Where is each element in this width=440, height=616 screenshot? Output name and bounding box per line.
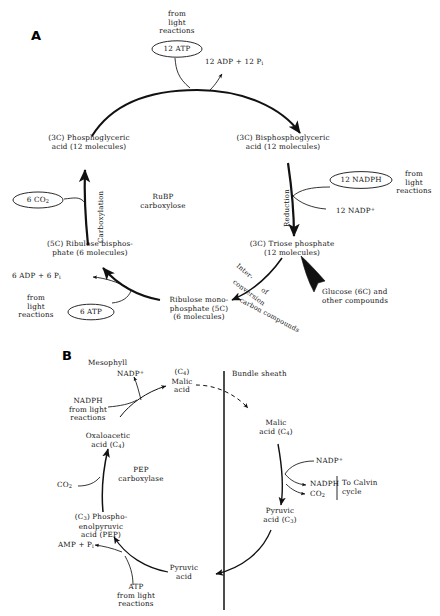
nadph-from-light-label: NADPH from light reactions [62, 397, 114, 423]
light-reactions-bottom-label: from light reactions [11, 294, 61, 320]
atp-feed-arrow [175, 58, 190, 88]
nadp-plus-top-superscript: + [140, 369, 145, 375]
oaa-rest: ) [122, 440, 125, 449]
co2-right-out [286, 484, 305, 494]
adp-bottom-text: 6 ADP + 6 P [12, 271, 59, 280]
rubp-carboxylase-label: RuBP carboxylose [120, 193, 206, 210]
pyruvic-acid-bottom-label: Pyruvic acid [160, 564, 208, 581]
bpga-label: (3C) Bisphosphoglyceric acid (12 molecul… [213, 134, 353, 151]
panel-label-b: B [62, 348, 72, 363]
pep-to-oaa-arrow [102, 449, 108, 512]
atp-bottom-feed [112, 291, 131, 303]
panel-label-a: A [31, 28, 41, 43]
co2-left-label: CO2 [57, 481, 72, 491]
adp-top-subscript: i [261, 60, 263, 66]
malic-transport-dashed [196, 385, 248, 408]
oaa-to-malic-arrow [120, 386, 166, 417]
light-reactions-top-label: from light reactions [138, 10, 216, 36]
nadp-plus-label: 12 NADP+ [336, 205, 375, 216]
malic-bundle-text: Malic acid (C [259, 418, 286, 436]
pep-carboxylase-label: PEP carboxylase [110, 466, 172, 483]
co2-subscript: 2 [46, 198, 49, 204]
rump-to-rubp-arrow [103, 268, 160, 300]
nadph-label: 12 NADPH [333, 176, 389, 185]
co2-right-label: CO2 [310, 490, 325, 500]
malic-to-pyruvate-arrow [278, 444, 282, 505]
pep-rest: ) Phospho- enolpyruvic acid (PEP) [79, 512, 128, 539]
nadph-right-label: NADPH [310, 480, 339, 489]
malic-bundle-rest: ) [290, 427, 293, 436]
nadp-plus-right-text: NADP [316, 456, 339, 465]
amp-subscript: i [92, 543, 94, 549]
nadp-plus-top-label: NADP+ [117, 368, 144, 379]
nadp-plus-superscript: + [371, 206, 376, 212]
glucose-label: Glucose (6C) and other compounds [322, 288, 434, 305]
reduction-label: Reduction [283, 189, 291, 227]
amp-label: AMP + Pi [58, 541, 94, 551]
nadph-feed-arrow [293, 187, 330, 209]
adp-bottom-subscript: i [59, 274, 61, 280]
co2-left-text: CO [57, 480, 69, 489]
malic-acid-bundle-label: Malic acid (C4) [248, 419, 304, 437]
atp-top-label: 12 ATP [152, 45, 202, 54]
amp-text: AMP + P [58, 540, 92, 549]
ribulose-monophosphate-label: Ribulose mono- phosphate (5C) (6 molecul… [155, 296, 243, 322]
amp-out-arrow [95, 545, 122, 552]
malic-acid-mesophyll-label: (C4) Malic acid [164, 368, 200, 395]
adp-top-text: 12 ADP + 12 P [205, 57, 261, 66]
co2-text: 6 CO [27, 195, 46, 204]
pga-label: (3C) Phosphoglyceric acid (12 molecules) [25, 134, 153, 151]
atp-from-light-label: ATP from light reactions [108, 583, 164, 609]
nadp-plus-text: 12 NADP [336, 206, 371, 215]
bundle-sheath-label: Bundle sheath [232, 370, 287, 379]
adp-out-arrow [210, 74, 222, 90]
nadp-plus-out-arrow [134, 377, 141, 400]
malic-meso-prefix: (C [174, 367, 183, 376]
co2-right-text: CO [310, 489, 322, 498]
co2-label: 6 CO2 [14, 196, 62, 206]
figure-canvas: A from light reactions 12 ATP 12 ADP + 1… [0, 0, 440, 616]
mesophyll-label: Mesophyll [88, 359, 127, 368]
nadp-plus-right-in [285, 461, 314, 474]
pep-label: (C3) Phospho- enolpyruvic acid (PEP) [57, 513, 145, 540]
pyruvic-bundle-rest: ) [294, 515, 297, 524]
co2-right-subscript: 2 [322, 492, 325, 498]
co2-feed-arrow [64, 198, 85, 203]
light-reactions-right-label: from light reactions [390, 170, 438, 196]
pyruvic-acid-bundle-label: Pyruvic acid (C3) [249, 507, 311, 525]
rubp-label: (5C) Ribulose bisphos- phate (6 molecule… [26, 240, 154, 257]
triose-phosphate-label: (3C) Triose phosphate (12 molecules) [228, 240, 356, 257]
atp-feed-b [125, 556, 133, 585]
nadp-plus-top-text: NADP [117, 369, 140, 378]
nadp-plus-right-superscript: + [339, 456, 344, 462]
oxaloacetic-acid-label: Oxaloacetic acid (C4) [74, 432, 142, 450]
co2-left-subscript: 2 [69, 483, 72, 489]
nadph-right-out [285, 474, 306, 485]
adp-top-label: 12 ADP + 12 Pi [205, 58, 263, 68]
carboxylation-arrow [85, 170, 88, 245]
carboxylation-label: Carboxylation [97, 191, 105, 243]
cycle-arc-top [92, 90, 300, 136]
atp-bottom-label: 6 ATP [68, 308, 114, 317]
to-calvin-cycle-label: To Calvin cycle [342, 479, 402, 496]
co2-left-feed [78, 477, 100, 486]
nadp-plus-right-label: NADP+ [316, 455, 343, 466]
adp-bottom-label: 6 ADP + 6 Pi [12, 272, 61, 282]
